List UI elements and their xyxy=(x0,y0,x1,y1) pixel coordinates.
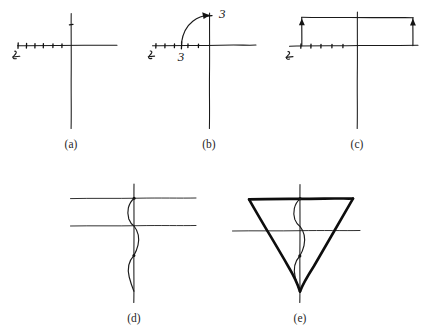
panel-c: (c) xyxy=(286,12,418,151)
panel-d: (d) xyxy=(71,184,197,325)
figure-container: (a) 3 3 xyxy=(0,0,429,335)
panel-d-node-lower xyxy=(132,254,135,257)
panel-a-caption: (a) xyxy=(65,138,78,151)
panel-a-x-axis xyxy=(18,45,118,46)
panel-b-x-value-label: 3 xyxy=(177,49,185,64)
panel-a: (a) xyxy=(13,14,117,152)
panel-b-caption: (b) xyxy=(202,138,216,151)
panel-e-node-lower xyxy=(298,254,301,257)
panel-c-caption: (c) xyxy=(351,138,364,151)
panel-d-node-upper xyxy=(133,197,136,200)
panel-b-y-value-label: 3 xyxy=(218,6,226,21)
panel-c-right-arrow-head xyxy=(410,19,416,26)
panel-e-triangle-left-edge xyxy=(249,200,300,292)
panel-b: 3 3 (b) xyxy=(148,6,256,151)
panel-e-horizontal-line xyxy=(233,231,361,232)
panel-e-triangle-right-edge xyxy=(300,199,353,292)
panel-e-caption: (e) xyxy=(294,312,307,325)
panel-c-axis-end-mark xyxy=(286,52,293,60)
panel-a-axis-end-mark xyxy=(13,51,20,59)
panel-b-axis-end-mark xyxy=(148,51,154,59)
panel-e-node-upper xyxy=(299,197,302,200)
panel-d-caption: (d) xyxy=(127,312,141,325)
panel-b-x-axis xyxy=(153,45,257,46)
panel-d-sine-curve xyxy=(128,198,139,291)
panel-e: (e) xyxy=(233,185,361,326)
panel-c-left-arrow-head xyxy=(299,18,305,25)
handdrawn-figure: (a) 3 3 xyxy=(0,0,429,335)
panel-c-x-axis xyxy=(290,45,419,46)
panel-b-rotation-arc xyxy=(181,15,208,43)
